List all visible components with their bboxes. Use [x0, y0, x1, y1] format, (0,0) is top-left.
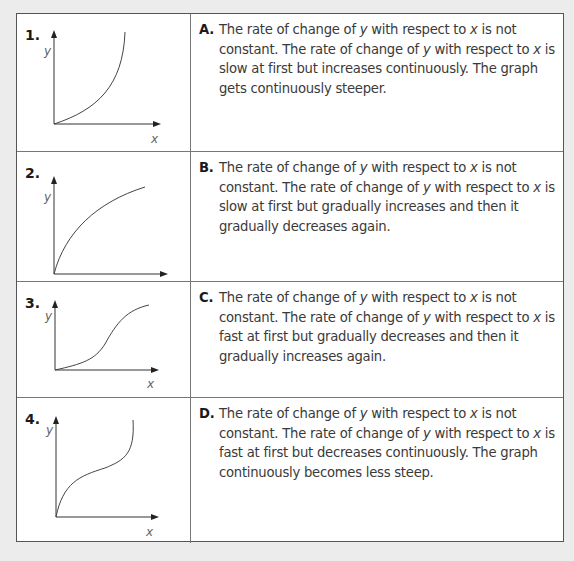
graph-cell: 4. y x	[17, 398, 191, 543]
svg-text:x: x	[145, 525, 154, 539]
svg-text:y: y	[45, 423, 54, 437]
table-row: 1. y x A. The rate of change of y with r…	[17, 14, 563, 152]
description-cell: D. The rate of change of y with respect …	[191, 398, 563, 543]
description-b: B. The rate of change of y with respect …	[199, 158, 559, 236]
table-row: 4. y x D. The rate of change of y with r…	[17, 398, 563, 543]
matching-table: 1. y x A. The rate of change of y with r…	[16, 13, 564, 542]
description-d: D. The rate of change of y with respect …	[199, 404, 559, 482]
svg-text:y: y	[43, 190, 52, 204]
table-row: 3. y x C. The rate of change of y with r…	[17, 282, 563, 398]
description-c: C. The rate of change of y with respect …	[199, 288, 559, 366]
svg-text:y: y	[44, 309, 53, 323]
graph-4: y x	[17, 398, 191, 543]
description-a: A. The rate of change of y with respect …	[199, 20, 559, 98]
svg-text:y: y	[43, 44, 52, 58]
description-cell: A. The rate of change of y with respect …	[191, 14, 563, 151]
table-row: 2. y x B. The rate of change of y with r…	[17, 152, 563, 282]
description-cell: C. The rate of change of y with respect …	[191, 282, 563, 397]
graph-cell: 2. y x	[17, 152, 191, 281]
graph-2: y x	[17, 152, 191, 282]
graph-cell: 1. y x	[17, 14, 191, 151]
svg-text:x: x	[150, 132, 159, 146]
description-cell: B. The rate of change of y with respect …	[191, 152, 563, 281]
svg-text:x: x	[146, 377, 155, 391]
graph-3: y x	[17, 282, 191, 398]
graph-cell: 3. y x	[17, 282, 191, 397]
graph-1: y x	[17, 14, 191, 152]
